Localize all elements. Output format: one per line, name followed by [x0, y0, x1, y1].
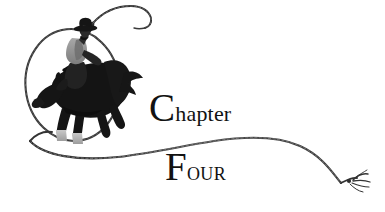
- rope-frayed-end-icon: [341, 170, 370, 192]
- chapter-heading-page: Chapter Four: [0, 0, 385, 212]
- swung-rope-overhead-icon: [93, 6, 151, 29]
- four-initial: F: [165, 145, 187, 188]
- four-label: Four: [165, 151, 226, 185]
- four-remainder: our: [187, 164, 226, 184]
- chapter-initial: C: [149, 86, 175, 129]
- chapter-remainder: hapter: [175, 101, 231, 126]
- chapter-label: Chapter: [149, 92, 231, 126]
